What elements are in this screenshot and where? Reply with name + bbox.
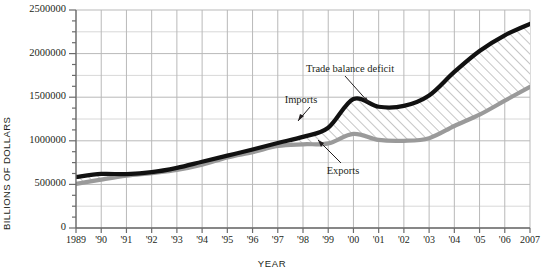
y-axis-tick-label: 500000 <box>0 177 66 188</box>
y-axis-tick-label: 2500000 <box>0 3 66 14</box>
y-axis-tick-label: 2000000 <box>0 47 66 58</box>
x-axis-tick-label: 2007 <box>510 234 544 245</box>
y-axis-tick-label: 0 <box>0 221 66 232</box>
annotation-label: Trade balance deficit <box>306 63 394 74</box>
y-axis-tick-label: 1500000 <box>0 90 66 101</box>
y-axis-tick-label: 1000000 <box>0 134 66 145</box>
chart-figure: BILLIONS OF DOLLARS YEAR <box>0 0 544 279</box>
annotation-label: Imports <box>285 94 318 105</box>
annotation-label: Exports <box>327 165 360 176</box>
